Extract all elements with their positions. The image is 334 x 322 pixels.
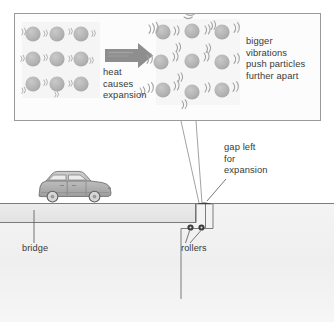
vib-line-2: vibrations xyxy=(246,47,287,58)
particle xyxy=(214,82,229,97)
particle xyxy=(73,76,88,91)
particle xyxy=(25,26,40,41)
car-wheel-rear xyxy=(47,191,58,202)
car xyxy=(39,171,111,202)
heat-causes-expansion-label: heatcausesexpansion xyxy=(103,66,147,101)
particle xyxy=(153,54,168,69)
car-wheel-front xyxy=(89,191,100,202)
particle xyxy=(25,76,40,91)
particle xyxy=(49,76,64,91)
gap-leader-line xyxy=(207,179,226,201)
particle xyxy=(155,82,170,97)
particle xyxy=(25,51,40,66)
callout-zoom-lines xyxy=(181,121,202,203)
gap-line-1: gap left xyxy=(224,141,256,152)
particle xyxy=(73,26,88,41)
heat-line-1: heat xyxy=(103,66,122,77)
particle xyxy=(49,26,64,41)
cool-lattice xyxy=(21,22,100,98)
heat-line-3: expansion xyxy=(103,89,147,100)
bridge-label: bridge xyxy=(22,243,48,254)
vib-line-4: further apart xyxy=(246,70,298,81)
heat-line-2: causes xyxy=(103,78,133,89)
particle xyxy=(214,24,229,39)
diagram-canvas: heatcausesexpansion biggervibrationspush… xyxy=(0,0,334,322)
bigger-vibrations-label: biggervibrationspush particlesfurther ap… xyxy=(246,35,305,81)
particle xyxy=(49,51,64,66)
particle xyxy=(184,84,199,99)
gap-left-for-expansion-label: gap leftforexpansion xyxy=(224,141,268,176)
particle xyxy=(184,53,199,68)
bridge-deck xyxy=(0,204,196,223)
gap-line-2: for xyxy=(224,153,235,164)
rollers-label: rollers xyxy=(181,243,207,254)
particle xyxy=(73,51,88,66)
vib-line-3: push particles xyxy=(246,58,305,69)
particle xyxy=(184,23,199,38)
gap-line-3: expansion xyxy=(224,164,268,175)
vib-line-1: bigger xyxy=(246,35,273,46)
particle xyxy=(214,54,229,69)
